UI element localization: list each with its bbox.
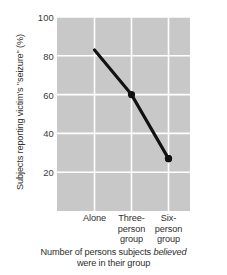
x-axis-title-line-2: were in their group (0, 258, 227, 269)
y-tick-label-40: 40 (26, 128, 54, 139)
data-point-alone (128, 91, 135, 98)
chart-figure: Subjects reporting victim's "seizure" (%… (0, 0, 227, 275)
y-axis-tick-labels: 100 80 60 40 20 (22, 0, 54, 275)
data-point-six-person-group (165, 155, 172, 162)
vertical-gridlines (95, 17, 169, 211)
x-tick-six-line-1: Six- (137, 213, 201, 224)
y-tick-label-80: 80 (26, 51, 54, 62)
y-tick-label-60: 60 (26, 90, 54, 101)
plot-canvas (57, 17, 190, 211)
x-tick-six-line-2: person (137, 224, 201, 235)
horizontal-gridlines (57, 17, 190, 172)
y-tick-label-100: 100 (26, 12, 54, 23)
y-tick-label-20: 20 (26, 167, 54, 178)
x-tick-six-line-3: group (137, 234, 201, 245)
x-tick-label-six-person-group: Six- person group (137, 213, 201, 245)
x-axis-title: Number of persons subjects believed were… (0, 247, 227, 269)
plot-area (57, 17, 190, 211)
x-axis-title-emphasis: believed (153, 247, 186, 257)
x-axis-title-line-1: Number of persons subjects believed (0, 247, 227, 258)
x-axis-title-pre: Number of persons subjects (41, 247, 154, 257)
